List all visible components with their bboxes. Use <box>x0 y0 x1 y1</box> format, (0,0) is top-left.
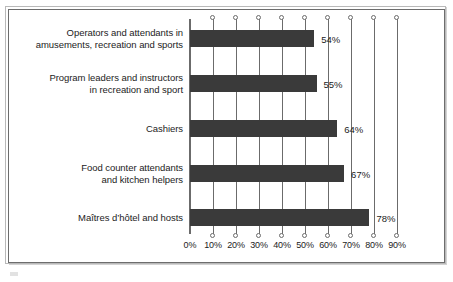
gridline-bottom-dot-icon <box>348 233 353 238</box>
bar-value-label: 78% <box>376 213 395 224</box>
gridline-top-dot-icon <box>394 15 399 20</box>
gridline-bottom-dot-icon <box>233 233 238 238</box>
gridline-bottom-dot-icon <box>256 233 261 238</box>
gridline-top-dot-icon <box>256 15 261 20</box>
gridline-top-dot-icon <box>302 15 307 20</box>
category-label-line: Operators and attendants in <box>8 27 183 39</box>
bar-value-label: 55% <box>324 79 343 90</box>
category-label-line: Maîtres d’hôtel and hosts <box>8 212 183 224</box>
gridline-80pct <box>374 19 375 234</box>
category-label-line: Program leaders and instructors <box>8 72 183 84</box>
category-label: Maîtres d’hôtel and hosts <box>8 212 183 224</box>
category-label-line: and kitchen helpers <box>8 174 183 186</box>
category-label-line: Cashiers <box>8 123 183 135</box>
category-label-line: Food counter attendants <box>8 162 183 174</box>
category-label: Food counter attendantsand kitchen helpe… <box>8 162 183 185</box>
category-label: Operators and attendants inamusements, r… <box>8 27 183 50</box>
bar <box>190 75 317 92</box>
gridline-bottom-dot-icon <box>325 233 330 238</box>
category-label-line: in recreation and sport <box>8 84 183 96</box>
gridline-top-dot-icon <box>371 15 376 20</box>
gridline-top-dot-icon <box>210 15 215 20</box>
gridline-top-dot-icon <box>325 15 330 20</box>
bar-value-label: 67% <box>351 169 370 180</box>
bar <box>190 120 337 137</box>
gridline-top-dot-icon <box>348 15 353 20</box>
x-tick-label-90pct: 90% <box>384 240 410 250</box>
category-label-line: amusements, recreation and sports <box>8 39 183 51</box>
category-label: Program leaders and instructorsin recrea… <box>8 72 183 95</box>
gridline-bottom-dot-icon <box>210 233 215 238</box>
bar-value-label: 54% <box>321 34 340 45</box>
gridline-top-dot-icon <box>233 15 238 20</box>
bar <box>190 30 314 47</box>
category-label: Cashiers <box>8 123 183 135</box>
gridline-top-dot-icon <box>279 15 284 20</box>
gridline-bottom-dot-icon <box>279 233 284 238</box>
bar <box>190 165 344 182</box>
chart-screenshot: 0%10%20%30%40%50%60%70%80%90% 54%55%64%6… <box>0 0 453 282</box>
bar <box>190 209 369 226</box>
bar-value-label: 64% <box>344 124 363 135</box>
gridline-bottom-dot-icon <box>394 233 399 238</box>
gridline-bottom-dot-icon <box>302 233 307 238</box>
gridline-bottom-dot-icon <box>371 233 376 238</box>
bar-chart-plot-area: 0%10%20%30%40%50%60%70%80%90% 54%55%64%6… <box>0 0 453 282</box>
gridline-90pct <box>397 19 398 234</box>
